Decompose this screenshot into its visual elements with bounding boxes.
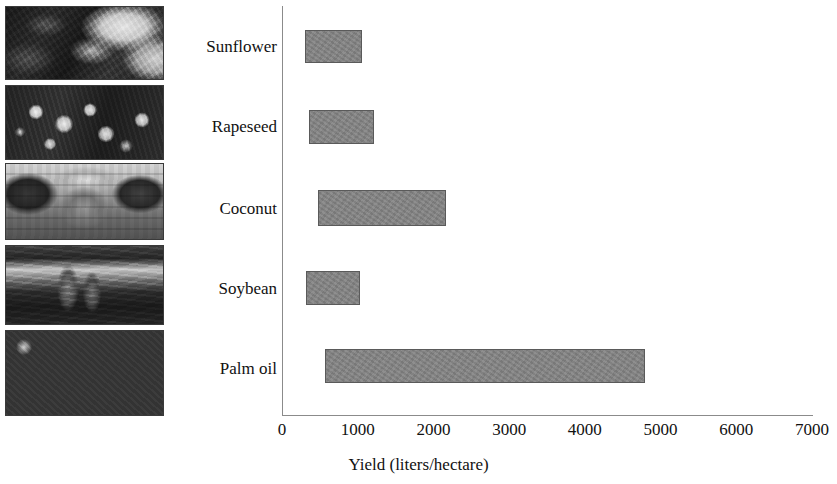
bar-palm-oil[interactable] (325, 349, 645, 383)
bar-coconut[interactable] (318, 190, 446, 226)
category-label-rapeseed: Rapeseed (212, 118, 277, 135)
x-tick-5000: 5000 (644, 421, 678, 438)
x-tick-7000: 7000 (795, 421, 829, 438)
x-tick-1000: 1000 (341, 421, 375, 438)
yield-bar-chart: Sunflower Rapeseed Coconut Soybean Palm … (0, 0, 837, 484)
y-axis-line (282, 6, 283, 416)
x-tick-3000: 3000 (492, 421, 526, 438)
bar-rapeseed[interactable] (309, 110, 374, 144)
category-label-coconut: Coconut (219, 200, 277, 217)
x-tick-2000: 2000 (416, 421, 450, 438)
category-label-palm-oil: Palm oil (220, 360, 277, 377)
bar-sunflower[interactable] (305, 30, 362, 63)
category-label-soybean: Soybean (218, 280, 277, 297)
category-label-sunflower: Sunflower (206, 38, 277, 55)
x-tick-4000: 4000 (568, 421, 602, 438)
bar-soybean[interactable] (306, 271, 360, 305)
x-axis-line (282, 415, 813, 416)
x-tick-6000: 6000 (719, 421, 753, 438)
x-axis-title: Yield (liters/hectare) (0, 456, 837, 473)
x-tick-0: 0 (278, 421, 287, 438)
